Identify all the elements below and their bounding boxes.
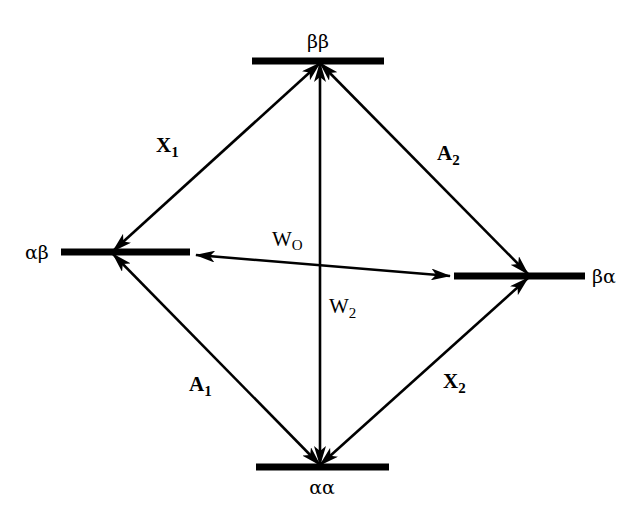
rate-label-x2: X2 xyxy=(443,369,466,396)
rate-label-a2-main: A xyxy=(437,141,453,165)
rate-label-x2-main: X xyxy=(443,369,458,393)
state-label-ba: βα xyxy=(592,265,616,287)
rate-label-a2: A2 xyxy=(437,141,460,168)
transition-x1-arrow xyxy=(113,63,320,251)
rate-label-w0: WO xyxy=(272,227,303,253)
rate-label-w0-sub: O xyxy=(292,237,303,253)
state-label-aa: αα xyxy=(309,476,335,498)
rate-label-a1-sub: 1 xyxy=(204,383,212,399)
rate-label-w2-sub: 2 xyxy=(349,305,357,321)
rate-label-w2: W2 xyxy=(329,294,356,321)
rate-label-a1-main: A xyxy=(189,372,205,396)
rate-label-x1-main: X xyxy=(156,133,171,157)
rate-label-x2-sub: 2 xyxy=(458,380,466,396)
energy-level-diagram: ββ αβ βα αα X1 A2 A1 X2 WO W2 xyxy=(0,0,641,517)
state-label-ab: αβ xyxy=(25,241,49,263)
transition-w0-arrow xyxy=(196,255,450,276)
rate-label-x1: X1 xyxy=(156,133,179,160)
transition-a2-arrow xyxy=(320,63,528,274)
rate-label-w2-main: W xyxy=(329,294,349,318)
rate-label-a1: A1 xyxy=(189,372,212,399)
state-label-bb: ββ xyxy=(307,30,329,52)
rate-label-a2-sub: 2 xyxy=(452,152,460,168)
rate-label-w0-main: W xyxy=(272,227,292,251)
transition-a1-arrow xyxy=(113,254,320,465)
rate-label-x1-sub: 1 xyxy=(171,144,179,160)
